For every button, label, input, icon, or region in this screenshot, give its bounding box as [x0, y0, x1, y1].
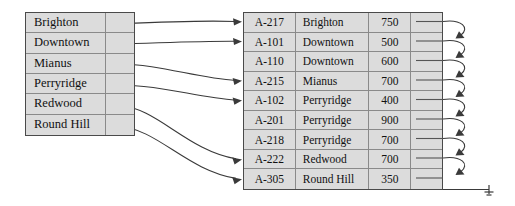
row-pointer-cell[interactable]: [411, 33, 442, 52]
balance-cell: 350: [369, 169, 411, 189]
table-row[interactable]: A-305 Round Hill 350: [244, 169, 442, 189]
index-key-cell: Perryridge: [26, 74, 106, 93]
link-brighton-to-a217: [118, 18, 242, 25]
index-key-cell: Redwood: [26, 94, 106, 113]
account-number-cell: A-218: [244, 130, 296, 149]
table-row[interactable]: A-102 Perryridge 400: [244, 91, 442, 111]
link-roundhill-to-a305: [118, 126, 242, 184]
table-row[interactable]: A-215 Mianus 700: [244, 72, 442, 92]
index-row[interactable]: Mianus: [26, 54, 134, 74]
table-row[interactable]: A-110 Downtown 600: [244, 52, 442, 72]
branch-name-cell: Perryridge: [296, 130, 370, 149]
account-number-cell: A-110: [244, 52, 296, 71]
index-pointer-cell[interactable]: [106, 94, 134, 113]
account-number-cell: A-101: [244, 33, 296, 52]
index-row[interactable]: Perryridge: [26, 74, 134, 94]
account-number-cell: A-217: [244, 13, 296, 32]
branch-name-cell: Redwood: [296, 150, 370, 169]
balance-cell: 400: [369, 91, 411, 110]
index-key-cell: Brighton: [26, 13, 106, 32]
branch-name-cell: Mianus: [296, 72, 370, 91]
index-row[interactable]: Round Hill: [26, 115, 134, 135]
row-pointer-cell[interactable]: [411, 169, 442, 189]
row-pointer-cell[interactable]: [411, 13, 442, 32]
branch-name-cell: Round Hill: [296, 169, 370, 189]
table-row[interactable]: A-201 Perryridge 900: [244, 111, 442, 131]
balance-cell: 700: [369, 130, 411, 149]
row-pointer-cell[interactable]: [411, 150, 442, 169]
index-key-cell: Round Hill: [26, 115, 106, 135]
balance-cell: 750: [369, 13, 411, 32]
row-pointer-cell[interactable]: [411, 91, 442, 110]
row-pointer-cell[interactable]: [411, 111, 442, 130]
index-table: Brighton Downtown Mianus Perryridge Redw…: [25, 12, 135, 136]
index-pointer-cell[interactable]: [106, 54, 134, 73]
account-number-cell: A-102: [244, 91, 296, 110]
table-row[interactable]: A-218 Perryridge 700: [244, 130, 442, 150]
row-pointer-cell[interactable]: [411, 130, 442, 149]
branch-name-cell: Perryridge: [296, 111, 370, 130]
branch-name-cell: Downtown: [296, 52, 370, 71]
table-row[interactable]: A-101 Downtown 500: [244, 33, 442, 53]
account-number-cell: A-222: [244, 150, 296, 169]
branch-name-cell: Perryridge: [296, 91, 370, 110]
balance-cell: 700: [369, 150, 411, 169]
balance-cell: 600: [369, 52, 411, 71]
index-pointer-cell[interactable]: [106, 115, 134, 135]
index-row[interactable]: Brighton: [26, 13, 134, 33]
balance-cell: 700: [369, 72, 411, 91]
row-pointer-cell[interactable]: [411, 52, 442, 71]
balance-cell: 900: [369, 111, 411, 130]
balance-cell: 500: [369, 33, 411, 52]
link-redwood-to-a222: [118, 105, 242, 165]
index-key-cell: Downtown: [26, 33, 106, 52]
account-file-table: A-217 Brighton 750 A-101 Downtown 500 A-…: [243, 12, 443, 190]
link-mianus-to-a215: [118, 64, 242, 85]
index-row[interactable]: Redwood: [26, 94, 134, 114]
index-pointer-cell[interactable]: [106, 33, 134, 52]
table-row[interactable]: A-222 Redwood 700: [244, 150, 442, 170]
index-pointer-cell[interactable]: [106, 74, 134, 93]
branch-name-cell: Brighton: [296, 13, 370, 32]
index-row[interactable]: Downtown: [26, 33, 134, 53]
index-pointer-cell[interactable]: [106, 13, 134, 32]
account-number-cell: A-305: [244, 169, 296, 189]
link-downtown-to-a101: [118, 38, 242, 45]
account-number-cell: A-201: [244, 111, 296, 130]
row-pointer-cell[interactable]: [411, 72, 442, 91]
index-diagram: Brighton Downtown Mianus Perryridge Redw…: [0, 0, 515, 206]
link-perryridge-to-a102: [118, 85, 242, 105]
branch-name-cell: Downtown: [296, 33, 370, 52]
index-key-cell: Mianus: [26, 54, 106, 73]
account-number-cell: A-215: [244, 72, 296, 91]
table-row[interactable]: A-217 Brighton 750: [244, 13, 442, 33]
